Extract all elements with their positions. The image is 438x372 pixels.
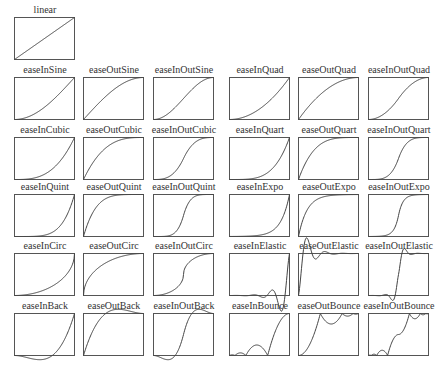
easing-curve-plot: [153, 253, 214, 296]
easing-curve: [299, 314, 359, 356]
easing-curve: [15, 254, 75, 296]
plot-frame: [84, 78, 144, 120]
easing-curve-plot: [14, 253, 75, 296]
chart-title: easeInOutSine: [141, 64, 227, 75]
easing-curve: [369, 195, 429, 237]
easing-curve: [369, 138, 429, 180]
easing-curve: [369, 78, 429, 120]
easing-curve: [369, 314, 429, 356]
easing-curve: [369, 249, 429, 301]
easing-curve: [154, 309, 214, 359]
easing-curve: [15, 18, 75, 60]
easing-curve: [154, 78, 214, 120]
chart-title: linear: [2, 4, 88, 15]
chart-title: easeInOutQuad: [356, 64, 438, 75]
easing-curve: [154, 254, 214, 296]
plot-frame: [84, 254, 144, 296]
easing-curve-plot: [14, 77, 75, 120]
chart-title: easeInOutExpo: [356, 181, 438, 192]
plot-frame: [299, 195, 359, 237]
easing-curve: [84, 195, 144, 237]
easing-curve-plot: [229, 313, 290, 356]
easing-curve-plot: [14, 194, 75, 237]
plot-frame: [299, 254, 359, 296]
easing-curve-plot: [83, 137, 144, 180]
easing-curve: [299, 138, 359, 180]
easing-curve-plot: [368, 137, 429, 180]
plot-frame: [15, 314, 75, 356]
plot-frame: [84, 314, 144, 356]
easing-curve-plot: [229, 194, 290, 237]
easing-curve-plot: [298, 194, 359, 237]
easing-curve: [299, 78, 359, 120]
easing-curve-plot: [153, 194, 214, 237]
easing-curve: [230, 314, 290, 356]
easing-curve-plot: [83, 77, 144, 120]
chart-title: easeInOutElastic: [356, 240, 438, 251]
plot-frame: [15, 195, 75, 237]
easing-curve-plot: [229, 77, 290, 120]
chart-title: easeInOutCirc: [141, 240, 227, 251]
easing-curve-plot: [14, 17, 75, 60]
easing-curve-plot: [298, 253, 359, 296]
chart-title: easeInOutQuint: [141, 181, 227, 192]
chart-title: easeInOutQuart: [356, 124, 438, 135]
easing-curve-plot: [229, 137, 290, 180]
easing-curve-plot: [153, 77, 214, 120]
easing-curve-plot: [153, 137, 214, 180]
easing-curve-plot: [298, 313, 359, 356]
chart-title: easeInOutBack: [141, 300, 227, 311]
easing-curve: [154, 138, 214, 180]
easing-curve-plot: [229, 253, 290, 296]
plot-frame: [299, 78, 359, 120]
plot-frame: [84, 195, 144, 237]
easing-curve-plot: [298, 77, 359, 120]
easing-curve: [84, 138, 144, 180]
easing-curve-plot: [368, 77, 429, 120]
easing-curve: [84, 254, 144, 296]
easing-curve: [154, 195, 214, 237]
easing-curve-plot: [83, 313, 144, 356]
plot-frame: [230, 195, 290, 237]
easing-curve: [299, 195, 359, 237]
easing-curve: [15, 78, 75, 120]
easing-curve: [84, 78, 144, 120]
easing-curve-plot: [14, 313, 75, 356]
easing-curve: [84, 309, 144, 355]
easing-curve-plot: [83, 194, 144, 237]
easing-curve: [15, 314, 75, 360]
easing-curve: [15, 138, 75, 180]
easing-curve: [230, 138, 290, 180]
easing-curve: [15, 195, 75, 237]
easing-curve-plot: [368, 194, 429, 237]
easing-curve: [230, 195, 290, 237]
plot-frame: [84, 138, 144, 180]
easing-curve-plot: [298, 137, 359, 180]
easing-curve-plot: [153, 313, 214, 356]
chart-title: easeInOutCubic: [141, 124, 227, 135]
plot-frame: [15, 78, 75, 120]
plot-frame: [230, 78, 290, 120]
easing-curve-plot: [368, 253, 429, 296]
plot-frame: [15, 254, 75, 296]
plot-frame: [15, 138, 75, 180]
easing-curve-plot: [368, 313, 429, 356]
easing-curve-plot: [14, 137, 75, 180]
easing-curve: [230, 78, 290, 120]
plot-frame: [230, 254, 290, 296]
chart-title: easeInOutBounce: [356, 300, 438, 311]
easing-curve-plot: [83, 253, 144, 296]
